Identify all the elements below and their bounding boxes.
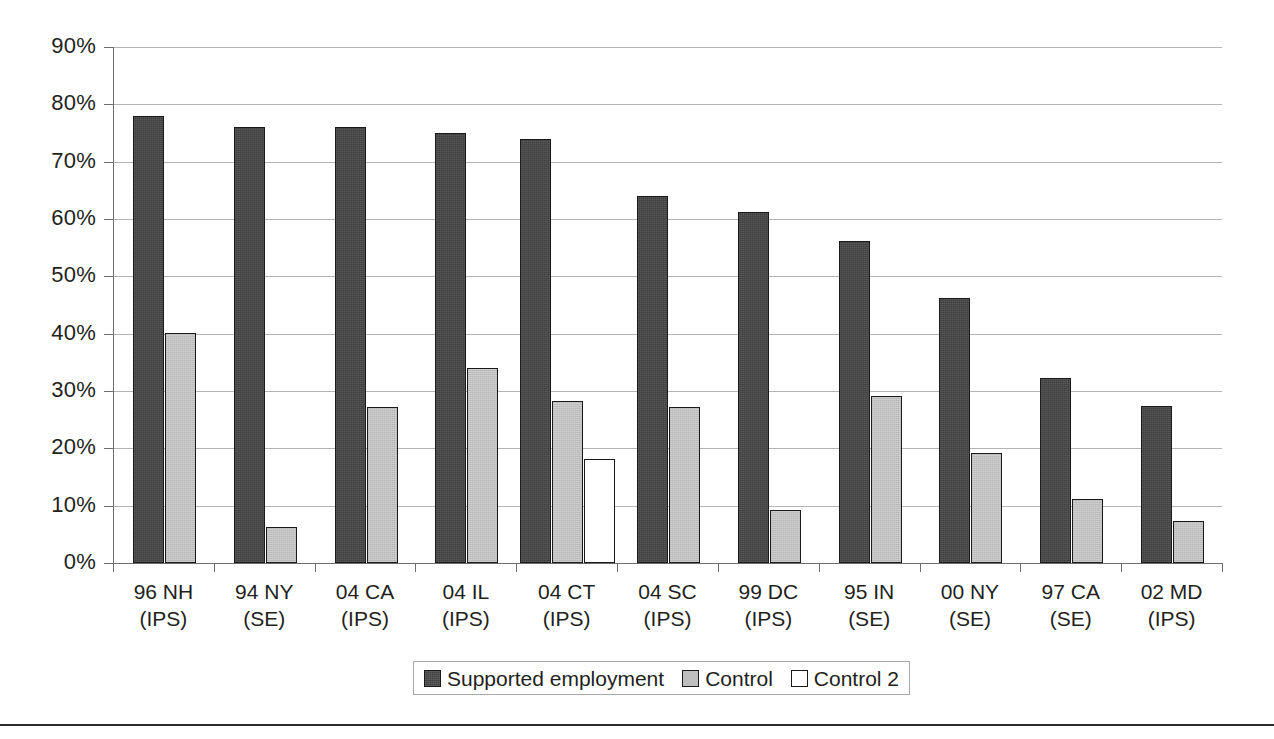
y-axis-tick — [104, 276, 113, 277]
category-line-1: 99 DC — [739, 580, 799, 603]
y-axis-label: 80% — [22, 92, 96, 114]
plot-area — [113, 47, 1222, 563]
y-axis-label: 10% — [22, 494, 96, 516]
bar-supported-employment-97-ca — [1040, 378, 1071, 563]
legend-item[interactable]: Control — [682, 668, 773, 689]
y-axis: 90%80%70%60%50%40%30%20%10%0% — [0, 0, 96, 739]
category-line-2: (IPS) — [718, 605, 819, 632]
legend-swatch-icon — [791, 670, 808, 687]
x-axis-tick — [1222, 563, 1223, 572]
bar-supported-employment-02-md — [1141, 406, 1172, 563]
category-line-2: (SE) — [920, 605, 1021, 632]
bar-supported-employment-99-dc — [738, 212, 769, 563]
bar-control-04-ca — [367, 407, 398, 563]
y-axis-tick — [104, 334, 113, 335]
bar-supported-employment-94-ny — [234, 127, 265, 563]
y-axis-label: 70% — [22, 150, 96, 172]
category-line-2: (IPS) — [516, 605, 617, 632]
category-line-2: (SE) — [1020, 605, 1121, 632]
category-line-2: (SE) — [819, 605, 920, 632]
bar-control-2-04-ct — [584, 459, 615, 563]
category-line-1: 00 NY — [941, 580, 999, 603]
x-axis-tick — [1121, 563, 1122, 572]
gridline — [114, 47, 1222, 48]
category-line-2: (IPS) — [617, 605, 718, 632]
x-axis-tick — [214, 563, 215, 572]
y-axis-tick — [104, 563, 113, 564]
category-line-2: (IPS) — [113, 605, 214, 632]
legend-label: Control 2 — [814, 668, 899, 689]
bottom-divider — [0, 724, 1274, 726]
category-line-2: (SE) — [214, 605, 315, 632]
gridline — [114, 334, 1222, 335]
legend-label: Control — [705, 668, 773, 689]
category-line-1: 97 CA — [1042, 580, 1100, 603]
bar-control-97-ca — [1072, 499, 1103, 563]
gridline — [114, 104, 1222, 105]
bar-control-04-sc — [669, 407, 700, 563]
x-axis-tick — [920, 563, 921, 572]
x-axis-tick — [819, 563, 820, 572]
category-line-1: 95 IN — [844, 580, 894, 603]
x-axis-tick — [516, 563, 517, 572]
legend-swatch-icon — [424, 670, 441, 687]
legend-label: Supported employment — [447, 668, 664, 689]
gridline — [114, 563, 1222, 564]
gridline — [114, 162, 1222, 163]
y-axis-tick — [104, 47, 113, 48]
x-axis-tick — [315, 563, 316, 572]
y-axis-tick — [104, 506, 113, 507]
x-axis-tick — [718, 563, 719, 572]
legend-swatch-icon — [682, 670, 699, 687]
bar-supported-employment-95-in — [839, 241, 870, 563]
category-line-2: (IPS) — [415, 605, 516, 632]
bar-supported-employment-04-il — [435, 133, 466, 563]
category-line-1: 96 NH — [134, 580, 194, 603]
y-axis-tick — [104, 162, 113, 163]
y-axis-label: 60% — [22, 207, 96, 229]
y-axis-label: 20% — [22, 436, 96, 458]
x-axis-tick — [1020, 563, 1021, 572]
category-line-2: (IPS) — [1121, 605, 1222, 632]
y-axis-tick — [104, 104, 113, 105]
bar-control-94-ny — [266, 527, 297, 563]
chart-legend: Supported employmentControlControl 2 — [413, 661, 910, 695]
x-axis-category-label: 04 CT(IPS) — [516, 578, 617, 632]
x-axis-category-label: 97 CA(SE) — [1020, 578, 1121, 632]
category-line-1: 02 MD — [1141, 580, 1203, 603]
bar-supported-employment-96-nh — [133, 116, 164, 563]
x-axis-tick — [113, 563, 114, 572]
x-axis-tick — [617, 563, 618, 572]
bar-control-04-ct — [552, 401, 583, 563]
bar-control-04-il — [467, 368, 498, 564]
bar-control-02-md — [1173, 521, 1204, 563]
y-axis-label: 30% — [22, 379, 96, 401]
x-axis-category-label: 02 MD(IPS) — [1121, 578, 1222, 632]
x-axis-category-label: 95 IN(SE) — [819, 578, 920, 632]
x-axis-category-label: 04 CA(IPS) — [315, 578, 416, 632]
category-line-1: 04 SC — [638, 580, 696, 603]
y-axis-label: 40% — [22, 322, 96, 344]
bar-control-96-nh — [165, 333, 196, 563]
x-axis-category-label: 99 DC(IPS) — [718, 578, 819, 632]
x-axis-category-label: 04 IL(IPS) — [415, 578, 516, 632]
bar-control-99-dc — [770, 510, 801, 563]
legend-item[interactable]: Control 2 — [791, 668, 899, 689]
x-axis-category-label: 00 NY(SE) — [920, 578, 1021, 632]
y-axis-tick — [104, 448, 113, 449]
bar-supported-employment-00-ny — [939, 298, 970, 563]
category-line-1: 04 CT — [538, 580, 595, 603]
legend-item[interactable]: Supported employment — [424, 668, 664, 689]
gridline — [114, 219, 1222, 220]
bar-supported-employment-04-ct — [520, 139, 551, 563]
x-axis-category-label: 96 NH(IPS) — [113, 578, 214, 632]
bar-control-95-in — [871, 396, 902, 563]
bar-control-00-ny — [971, 453, 1002, 563]
chart-page: 90%80%70%60%50%40%30%20%10%0% 96 NH(IPS)… — [0, 0, 1274, 739]
bar-supported-employment-04-sc — [637, 196, 668, 563]
gridline — [114, 276, 1222, 277]
x-axis-category-label: 94 NY(SE) — [214, 578, 315, 632]
category-line-2: (IPS) — [315, 605, 416, 632]
y-axis-label: 50% — [22, 264, 96, 286]
category-line-1: 04 IL — [443, 580, 490, 603]
